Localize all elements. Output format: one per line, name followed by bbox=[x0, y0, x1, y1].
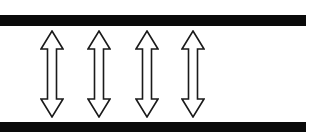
top-plate bbox=[0, 15, 306, 26]
double-arrow-icon bbox=[87, 30, 111, 118]
double-arrow-vertical-icon bbox=[87, 30, 111, 118]
double-arrow-icon bbox=[181, 30, 205, 118]
double-arrow-vertical-icon bbox=[135, 30, 159, 118]
double-arrow-icon bbox=[135, 30, 159, 118]
bottom-plate bbox=[0, 122, 306, 132]
double-arrow-vertical-icon bbox=[181, 30, 205, 118]
double-arrow-icon bbox=[40, 30, 64, 118]
double-arrow-vertical-icon bbox=[40, 30, 64, 118]
